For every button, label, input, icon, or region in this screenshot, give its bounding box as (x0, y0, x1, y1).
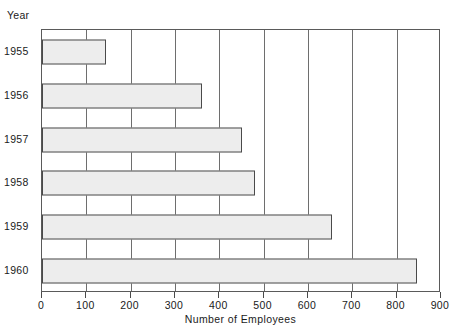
x-tick (85, 292, 86, 298)
bar-1957 (42, 127, 242, 152)
y-tick-label-1958: 1958 (4, 176, 38, 188)
x-tick-label-0: 0 (38, 299, 44, 311)
y-axis-title: Year (7, 9, 29, 21)
x-tick (263, 292, 264, 298)
bar-row (42, 249, 439, 293)
bar-1960 (42, 259, 417, 284)
x-tick-label-500: 500 (253, 299, 272, 311)
x-axis-tick-labels: 0100200300400500600700800900 (41, 299, 440, 313)
x-tick (41, 292, 42, 298)
x-tick (307, 292, 308, 298)
x-tick-label-200: 200 (120, 299, 139, 311)
bar-1955 (42, 39, 106, 64)
bar-row (42, 30, 439, 74)
bar-1958 (42, 171, 255, 196)
y-tick-label-1960: 1960 (4, 264, 38, 276)
x-tick (218, 292, 219, 298)
y-axis-tick-labels: 195519561957195819591960 (0, 29, 38, 292)
y-tick-label-1957: 1957 (4, 133, 38, 145)
bar-chart: Year 195519561957195819591960 0100200300… (0, 0, 467, 331)
bar-1959 (42, 215, 332, 240)
y-tick-label-1955: 1955 (4, 45, 38, 57)
bar-row (42, 74, 439, 118)
x-tick (440, 292, 441, 298)
bar-row (42, 205, 439, 249)
x-tick (130, 292, 131, 298)
x-tick-label-100: 100 (76, 299, 95, 311)
x-tick-label-300: 300 (165, 299, 184, 311)
x-tick (174, 292, 175, 298)
x-tick-label-400: 400 (209, 299, 228, 311)
y-tick-label-1956: 1956 (4, 89, 38, 101)
x-tick-label-900: 900 (431, 299, 450, 311)
y-tick-label-1959: 1959 (4, 220, 38, 232)
bar-1956 (42, 83, 202, 108)
x-axis-title: Number of Employees (41, 313, 440, 325)
x-tick (396, 292, 397, 298)
bar-row (42, 162, 439, 206)
x-tick-label-700: 700 (342, 299, 361, 311)
plot-area (41, 29, 440, 292)
x-tick-label-600: 600 (298, 299, 317, 311)
bar-row (42, 118, 439, 162)
x-tick (351, 292, 352, 298)
x-tick-label-800: 800 (386, 299, 405, 311)
